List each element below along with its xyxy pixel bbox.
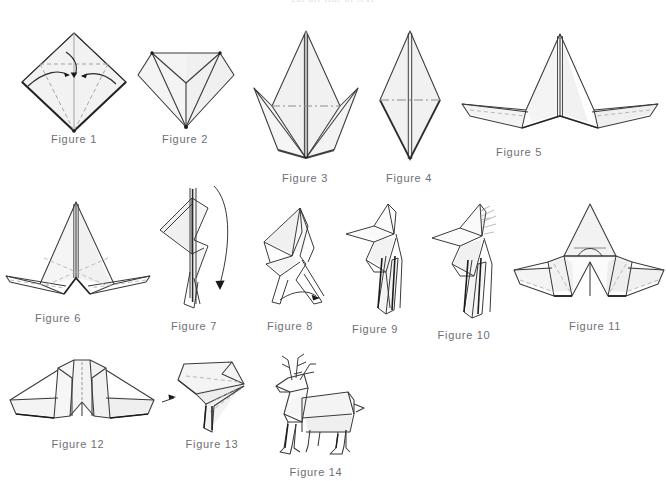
figure-4-illustration [370,28,450,163]
figure-2-illustration [132,45,240,130]
figure-3-illustration [250,28,362,163]
figure-4-caption: Figure 4 [386,172,432,184]
figure-13-illustration [160,358,256,436]
figure-7-caption: Figure 7 [171,320,217,332]
figure-9-illustration [342,200,432,320]
figure-11-caption: Figure 11 [569,320,621,332]
figure-8-caption: Figure 8 [267,320,313,332]
figure-1-caption: Figure 1 [51,133,97,145]
figure-6-caption: Figure 6 [35,312,81,324]
figure-9-caption: Figure 9 [352,323,398,335]
figure-12-illustration [8,356,156,436]
diagram-sheet: cut off line of text [0,0,666,481]
figure-8-illustration [250,204,350,316]
figure-14-illustration [258,352,374,458]
figure-5-caption: Figure 5 [496,146,542,158]
figure-10-caption: Figure 10 [438,329,491,341]
figure-1-illustration [18,30,130,135]
figure-2-caption: Figure 2 [162,133,208,145]
figure-11-illustration [512,200,666,312]
figure-10-illustration [424,198,520,324]
clipped-header-text: cut off line of text [0,0,666,3]
figure-14-caption: Figure 14 [290,466,343,478]
figure-13-caption: Figure 13 [186,438,239,450]
figure-7-illustration [152,186,252,311]
figure-5-illustration [460,30,660,140]
figure-12-caption: Figure 12 [52,438,105,450]
figure-3-caption: Figure 3 [282,172,328,184]
figure-6-illustration [4,198,154,308]
